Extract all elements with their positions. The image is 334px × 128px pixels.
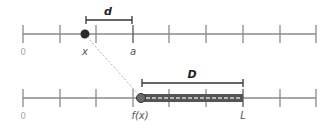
bottom-zero-label: 0 — [20, 111, 26, 121]
diagram-canvas: d 0 x a D — [0, 0, 334, 128]
tick-a-label: a — [130, 46, 136, 57]
top-zero-label: 0 — [20, 47, 26, 57]
distance-label-d: d — [104, 5, 112, 18]
distance-label-D: D — [187, 68, 196, 81]
point-fx — [137, 94, 146, 103]
bottom-number-line: D 0 f(x) L — [20, 68, 316, 121]
point-fx-label: f(x) — [131, 110, 148, 121]
top-number-line: d 0 x a — [20, 5, 316, 57]
tick-L-label: L — [240, 110, 246, 121]
point-x-label: x — [81, 46, 88, 57]
point-x — [81, 30, 90, 39]
